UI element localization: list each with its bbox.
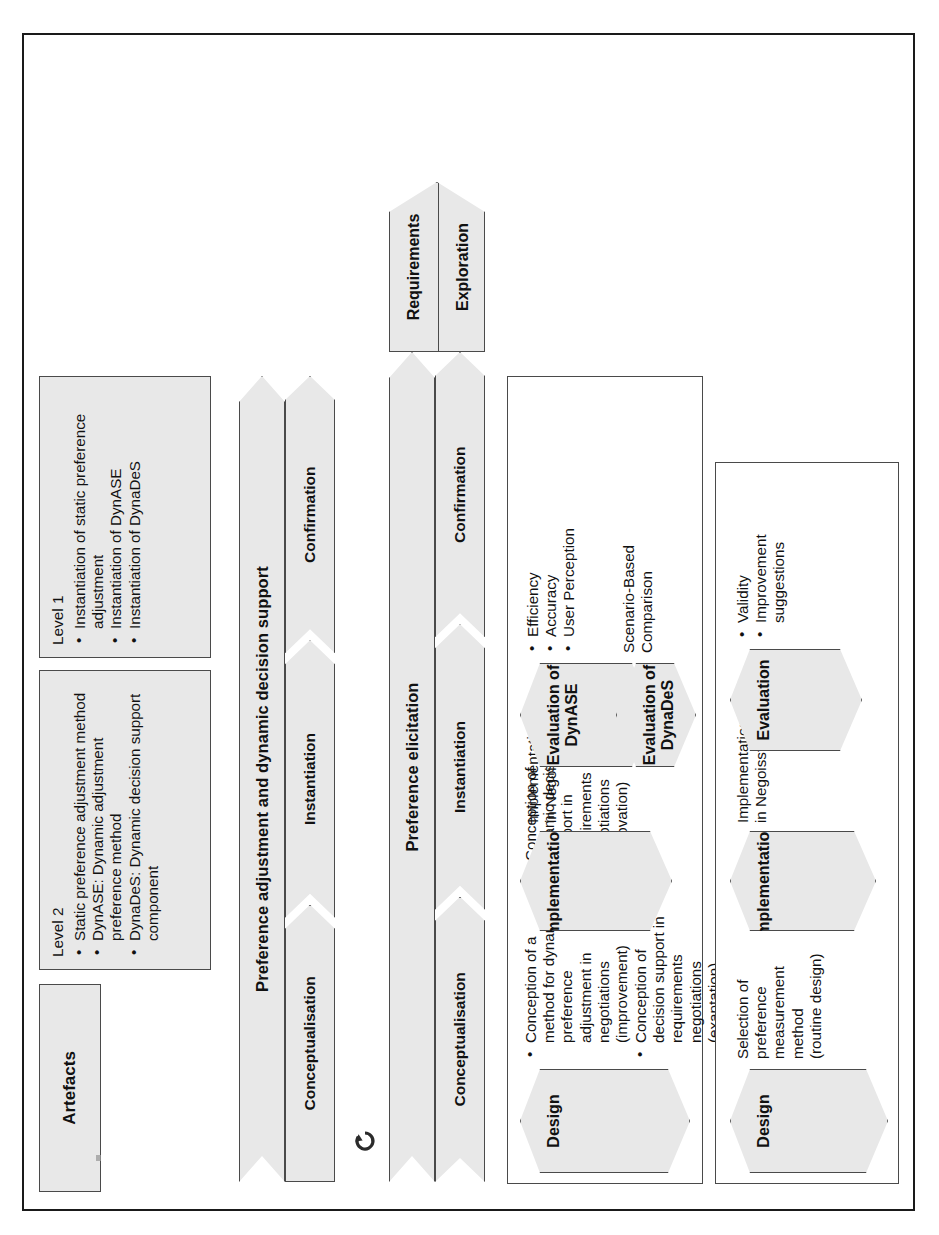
phase2-bar: Preference adjustment and dynamic decisi… xyxy=(239,376,335,1182)
list-item: Efficiency xyxy=(524,503,542,653)
phase1-substep-instantiation: Instantiation xyxy=(435,624,485,909)
phase2-evaluation-dynades-text: Scenario-Based Comparison xyxy=(620,483,656,653)
level2-list: Static preference adjustment method DynA… xyxy=(71,679,162,957)
phase2-title: Preference adjustment and dynamic decisi… xyxy=(252,566,271,992)
scan-speck xyxy=(96,1155,101,1161)
phase1-start-block: Requirements Exploration xyxy=(389,182,485,352)
requirements-row: Requirements xyxy=(390,183,438,351)
phase1-substep-conceptualisation: Conceptualisation xyxy=(435,897,485,1182)
phase1-evaluation-bullets: Validity Improvement suggestions xyxy=(734,489,789,639)
list-item: Instantiation of DynASE xyxy=(107,385,125,645)
artefacts-level2-box: Level 2 Static preference adjustment met… xyxy=(39,670,211,970)
list-item: Instantiation of DynaDeS xyxy=(125,385,143,645)
substep-label: Instantiation xyxy=(301,733,319,825)
phase2-content-panel: Design Conception of a method for dynami… xyxy=(507,376,703,1184)
list-item: Accuracy xyxy=(542,503,560,653)
phase2-outer-arrow: Preference adjustment and dynamic decisi… xyxy=(239,376,285,1182)
phase2-substep-conceptualisation: Conceptualisation xyxy=(285,905,335,1182)
phase1-substep-confirmation: Confirmation xyxy=(435,352,485,637)
phase1-design-banner: Design xyxy=(730,1069,888,1173)
exploration-label: Exploration xyxy=(453,223,471,311)
list-item: DynaDeS: Dynamic decision support compon… xyxy=(125,679,161,957)
phase2-substep-instantiation: Instantiation xyxy=(285,640,335,917)
refresh-loop-icon xyxy=(352,1128,378,1154)
phase2-design-banner-label: Design xyxy=(545,1094,563,1147)
phase1-implementation-banner-label: Implementation xyxy=(755,822,773,940)
figure-frame: Artefacts Level 2 Static preference adju… xyxy=(22,33,915,1211)
level1-title: Level 1 xyxy=(49,595,67,645)
substep-label: Conceptualisation xyxy=(451,972,469,1106)
phase1-evaluation-banner-label: Evaluation xyxy=(755,660,773,741)
list-item: Static preference adjustment method xyxy=(71,679,89,957)
level2-title: Level 2 xyxy=(49,907,67,957)
phase1-substeps: Conceptualisation Instantiation Confirma… xyxy=(435,352,485,1182)
artefacts-header-box: Artefacts xyxy=(39,984,101,1192)
substep-label: Confirmation xyxy=(301,466,319,562)
phase2-substep-confirmation: Confirmation xyxy=(285,376,335,653)
phase2-implementation-banner: Implementation xyxy=(520,831,672,931)
phase1-outer-arrow: Preference elicitation xyxy=(389,352,435,1182)
substep-label: Confirmation xyxy=(451,446,469,542)
phase1-evaluation-banner: Evaluation xyxy=(730,649,862,751)
phase1-bar: Preference elicitation Conceptualisation… xyxy=(389,352,485,1182)
list-item: Validity xyxy=(734,489,752,639)
list-item: DynASE: Dynamic adjustment preference me… xyxy=(89,679,125,957)
exploration-row: Exploration xyxy=(438,183,486,351)
phase2-design-banner: Design xyxy=(520,1069,690,1173)
phase2-evaluation-dynades-banner-label: Evaluation of DynaDeS xyxy=(641,665,677,765)
phase2-evaluation-dynase-banner-label: Evaluation of DynASE xyxy=(545,665,581,765)
phase2-substeps: Conceptualisation Instantiation Confirma… xyxy=(285,376,335,1182)
requirements-label: Requirements xyxy=(405,214,423,321)
phase2-evaluation-dynase-bullets: Efficiency Accuracy User Perception xyxy=(524,503,579,653)
diagram-stage: Artefacts Level 2 Static preference adju… xyxy=(39,52,899,1192)
substep-label: Instantiation xyxy=(451,721,469,813)
list-item: User Perception xyxy=(560,503,578,653)
artefacts-level1-box: Level 1 Instantiation of static preferen… xyxy=(39,376,211,658)
phase1-title: Preference elicitation xyxy=(402,682,421,851)
phase1-implementation-banner: Implementation xyxy=(730,831,876,931)
list-item: Instantiation of static preference adjus… xyxy=(71,385,107,645)
phase2-implementation-banner-label: Implementation xyxy=(545,822,563,940)
artefacts-header-label: Artefacts xyxy=(60,1051,80,1125)
figure-page: Artefacts Level 2 Static preference adju… xyxy=(0,0,939,1235)
substep-label: Conceptualisation xyxy=(301,976,319,1110)
phase1-design-banner-label: Design xyxy=(755,1094,773,1147)
phase1-content-panel: Design Selection of preference measureme… xyxy=(715,462,899,1184)
level1-list: Instantiation of static preference adjus… xyxy=(71,385,144,645)
list-item: Improvement suggestions xyxy=(752,489,788,639)
